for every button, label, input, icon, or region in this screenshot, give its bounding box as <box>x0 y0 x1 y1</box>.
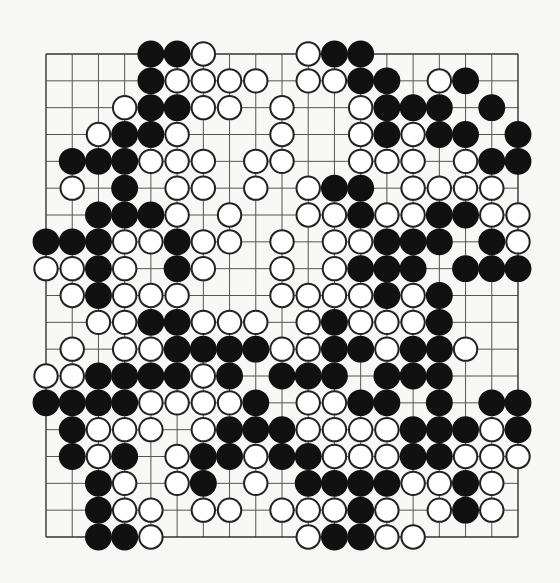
black-stone <box>60 417 85 442</box>
white-stone <box>165 176 188 199</box>
black-stone <box>453 122 478 147</box>
white-stone <box>375 445 398 468</box>
white-stone <box>270 230 293 253</box>
white-stone <box>61 284 84 307</box>
white-stone <box>113 257 136 280</box>
black-stone <box>60 390 85 415</box>
black-stone <box>60 229 85 254</box>
white-stone <box>506 203 529 226</box>
white-stone <box>454 337 477 360</box>
black-stone <box>348 175 373 200</box>
black-stone <box>505 390 530 415</box>
black-stone <box>243 417 268 442</box>
white-stone <box>218 311 241 334</box>
black-stone <box>348 336 373 361</box>
black-stone <box>243 336 268 361</box>
black-stone <box>374 471 399 496</box>
black-stone <box>112 122 137 147</box>
white-stone <box>192 498 215 521</box>
black-stone <box>269 444 294 469</box>
black-stone <box>374 122 399 147</box>
black-stone <box>112 202 137 227</box>
black-stone <box>427 122 452 147</box>
white-stone <box>113 498 136 521</box>
white-stone <box>480 472 503 495</box>
black-stone <box>348 41 373 66</box>
white-stone <box>349 418 372 441</box>
black-stone <box>138 68 163 93</box>
black-stone <box>86 202 111 227</box>
white-stone <box>61 176 84 199</box>
black-stone <box>400 444 425 469</box>
white-stone <box>454 445 477 468</box>
white-stone <box>454 176 477 199</box>
black-stone <box>86 524 111 549</box>
black-stone <box>505 122 530 147</box>
black-stone <box>138 41 163 66</box>
black-stone <box>164 310 189 335</box>
black-stone <box>505 256 530 281</box>
white-stone <box>401 311 424 334</box>
black-stone <box>33 390 58 415</box>
white-stone <box>349 123 372 146</box>
black-stone <box>191 444 216 469</box>
white-stone <box>165 150 188 173</box>
black-stone <box>348 390 373 415</box>
white-stone <box>323 418 346 441</box>
white-stone <box>401 525 424 548</box>
white-stone <box>323 391 346 414</box>
white-stone <box>428 176 451 199</box>
white-stone <box>297 311 320 334</box>
white-stone <box>192 391 215 414</box>
black-stone <box>348 471 373 496</box>
black-stone <box>296 471 321 496</box>
white-stone <box>297 176 320 199</box>
white-stone <box>349 311 372 334</box>
white-stone <box>192 418 215 441</box>
black-stone <box>191 336 216 361</box>
white-stone <box>165 284 188 307</box>
black-stone <box>479 229 504 254</box>
white-stone <box>270 257 293 280</box>
black-stone <box>112 149 137 174</box>
black-stone <box>164 336 189 361</box>
white-stone <box>480 176 503 199</box>
black-stone <box>374 283 399 308</box>
black-stone <box>427 444 452 469</box>
white-stone <box>244 445 267 468</box>
black-stone <box>374 68 399 93</box>
white-stone <box>401 203 424 226</box>
black-stone <box>322 363 347 388</box>
white-stone <box>506 230 529 253</box>
white-stone <box>113 311 136 334</box>
black-stone <box>243 390 268 415</box>
white-stone <box>454 150 477 173</box>
black-stone <box>427 336 452 361</box>
black-stone <box>374 363 399 388</box>
white-stone <box>139 391 162 414</box>
black-stone <box>60 444 85 469</box>
white-stone <box>87 123 110 146</box>
white-stone <box>349 96 372 119</box>
white-stone <box>192 96 215 119</box>
black-stone <box>348 524 373 549</box>
white-stone <box>192 42 215 65</box>
white-stone <box>349 150 372 173</box>
white-stone <box>165 472 188 495</box>
white-stone <box>323 445 346 468</box>
black-stone <box>479 95 504 120</box>
white-stone <box>297 69 320 92</box>
black-stone <box>138 95 163 120</box>
go-board <box>0 0 560 583</box>
black-stone <box>164 256 189 281</box>
white-stone <box>270 284 293 307</box>
white-stone <box>480 203 503 226</box>
white-stone <box>401 284 424 307</box>
white-stone <box>270 150 293 173</box>
black-stone <box>296 363 321 388</box>
white-stone <box>375 525 398 548</box>
black-stone <box>427 202 452 227</box>
black-stone <box>348 256 373 281</box>
white-stone <box>165 445 188 468</box>
white-stone <box>375 498 398 521</box>
